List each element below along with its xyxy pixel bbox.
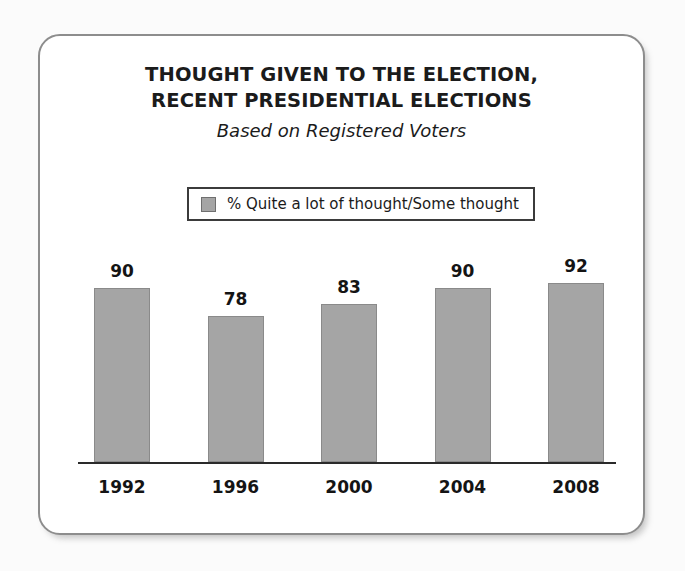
bar-group: 902004 [435,34,491,535]
bar-rect [548,283,604,462]
bar-value-label: 83 [321,277,377,297]
bar-value-label: 78 [208,289,264,309]
x-axis-tick-label: 2004 [435,477,491,497]
bar-group: 832000 [321,34,377,535]
x-axis-tick-label: 1992 [94,477,150,497]
bar-rect [208,316,264,462]
bar-group: 781996 [208,34,264,535]
bar-rect [435,288,491,462]
chart-figure: THOUGHT GIVEN TO THE ELECTION, RECENT PR… [0,0,685,571]
x-axis-tick-label: 2000 [321,477,377,497]
bar-group: 901992 [94,34,150,535]
x-axis-tick-label: 1996 [208,477,264,497]
x-axis-tick-label: 2008 [548,477,604,497]
bar-group: 922008 [548,34,604,535]
bar-value-label: 90 [435,261,491,281]
bar-rect [94,288,150,462]
plot-area: 901992781996832000902004922008 [38,34,645,535]
bar-value-label: 92 [548,256,604,276]
bar-rect [321,304,377,462]
bar-value-label: 90 [94,261,150,281]
